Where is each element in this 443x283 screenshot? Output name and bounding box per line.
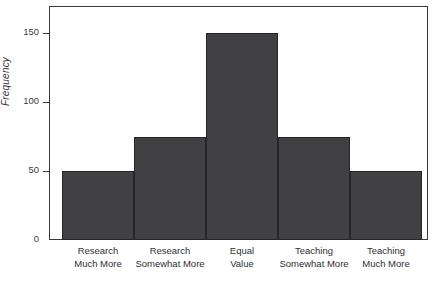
y-axis-tick-label: 100 (23, 95, 39, 106)
y-axis-tick-label: 150 (23, 26, 39, 37)
y-axis-title: Frequency (0, 26, 16, 106)
x-axis-tick-label-line: Teaching (332, 245, 440, 258)
y-axis-tick-mark (43, 33, 49, 35)
bar[interactable] (62, 171, 134, 240)
y-axis-tick-mark (43, 171, 49, 173)
x-axis-tick-label: TeachingMuch More (332, 245, 440, 270)
bar[interactable] (278, 137, 350, 241)
y-axis-tick: 0 (0, 240, 49, 241)
y-axis-tick: 100 (0, 102, 49, 103)
histogram-figure: Frequency 050100150 ResearchMuch MoreRes… (0, 0, 443, 283)
bar[interactable] (350, 171, 422, 240)
y-axis-tick-label: 50 (28, 164, 39, 175)
y-axis-tick: 150 (0, 33, 49, 34)
y-axis-tick: 50 (0, 171, 49, 172)
y-axis-tick-label: 0 (34, 233, 39, 244)
bar[interactable] (206, 33, 278, 240)
bar[interactable] (134, 137, 206, 241)
plot-area (50, 7, 427, 240)
y-axis-tick-mark (43, 102, 49, 104)
x-axis-tick-label-line: Much More (332, 258, 440, 271)
